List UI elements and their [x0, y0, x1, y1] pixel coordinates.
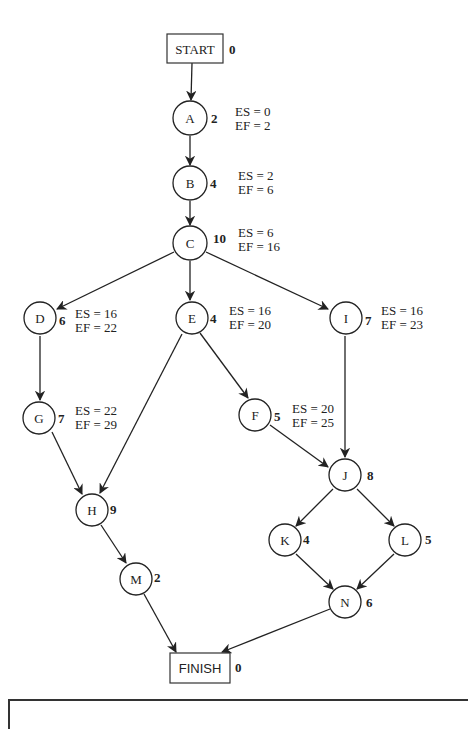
node-m-duration: 2	[154, 570, 161, 585]
node-k-duration: 4	[303, 532, 310, 547]
finish-node: FINISH 0	[170, 653, 242, 683]
node-j: J 8	[329, 459, 374, 491]
node-b-es: ES = 2	[238, 168, 274, 183]
node-d-label: D	[35, 311, 44, 326]
edge-start-a	[191, 63, 192, 100]
node-c: C 10 ES = 6 EF = 16	[173, 225, 281, 260]
node-c-ef: EF = 16	[238, 239, 281, 254]
node-a-duration: 2	[211, 111, 218, 126]
node-j-duration: 8	[367, 468, 374, 483]
node-i-es: ES = 16	[381, 303, 424, 318]
node-g-es: ES = 22	[75, 403, 117, 418]
node-g-label: G	[34, 411, 43, 426]
edge-g-h	[52, 432, 82, 494]
edge-m-finish	[144, 594, 176, 652]
node-d-es: ES = 16	[75, 306, 118, 321]
node-b-label: B	[186, 176, 195, 191]
node-c-label: C	[186, 236, 195, 251]
node-l-label: L	[401, 533, 409, 548]
node-k: K 4	[269, 524, 310, 556]
node-b: B 4 ES = 2 EF = 6	[173, 166, 274, 200]
edge-h-m	[101, 525, 126, 563]
edge-k-n	[296, 554, 333, 589]
edge-n-finish	[222, 609, 330, 652]
node-h-duration: 9	[110, 502, 117, 517]
node-c-duration: 10	[213, 231, 226, 246]
node-e-duration: 4	[210, 311, 217, 326]
node-f-ef: EF = 25	[292, 415, 334, 430]
edge-j-l	[357, 489, 394, 526]
node-j-label: J	[342, 468, 347, 483]
node-g-ef: EF = 29	[75, 417, 117, 432]
edge-e-f	[200, 333, 248, 398]
node-d-duration: 6	[59, 313, 66, 328]
node-e: E 4 ES = 16 EF = 20	[176, 302, 272, 334]
edge-c-i	[206, 252, 328, 309]
node-a-ef: EF = 2	[235, 118, 271, 133]
node-e-ef: EF = 20	[229, 317, 271, 332]
node-i-ef: EF = 23	[381, 317, 423, 332]
finish-duration: 0	[235, 660, 242, 675]
node-m: M 2	[120, 563, 161, 595]
node-k-label: K	[280, 533, 290, 548]
node-c-es: ES = 6	[238, 225, 274, 240]
edge-f-j	[270, 425, 328, 467]
node-n-label: N	[340, 595, 350, 610]
edges	[40, 63, 394, 652]
node-a-label: A	[185, 111, 195, 126]
node-f-duration: 5	[274, 409, 281, 424]
node-a-es: ES = 0	[235, 104, 271, 119]
node-i: I 7 ES = 16 EF = 23	[330, 302, 424, 334]
node-f-es: ES = 20	[292, 401, 334, 416]
caption-box	[8, 699, 468, 729]
node-i-duration: 7	[365, 313, 372, 328]
node-i-label: I	[344, 311, 348, 326]
node-e-es: ES = 16	[229, 303, 272, 318]
node-b-ef: EF = 6	[238, 182, 274, 197]
edge-l-n	[357, 554, 394, 589]
edge-c-d	[57, 252, 174, 309]
node-n: N 6	[329, 586, 373, 618]
node-l: L 5	[389, 524, 432, 556]
node-d: D 6 ES = 16 EF = 22	[24, 302, 118, 335]
edge-j-k	[296, 489, 333, 526]
node-b-duration: 4	[210, 176, 217, 191]
node-d-ef: EF = 22	[75, 320, 117, 335]
node-g: G 7 ES = 22 EF = 29	[23, 402, 117, 434]
node-f: F 5 ES = 20 EF = 25	[239, 399, 334, 431]
node-a: A 2 ES = 0 EF = 2	[173, 101, 271, 135]
node-n-duration: 6	[366, 595, 373, 610]
node-f-label: F	[251, 408, 258, 423]
start-label: START	[175, 42, 214, 57]
finish-label: FINISH	[179, 661, 222, 676]
node-g-duration: 7	[58, 411, 65, 426]
start-duration: 0	[229, 42, 236, 57]
start-node: START 0	[167, 34, 236, 63]
node-m-label: M	[130, 572, 142, 587]
node-l-duration: 5	[425, 532, 432, 547]
node-e-label: E	[188, 311, 196, 326]
node-h: H 9	[76, 494, 117, 526]
node-h-label: H	[87, 503, 96, 518]
